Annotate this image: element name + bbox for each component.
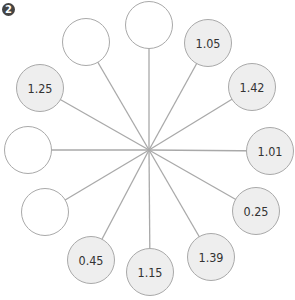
empty-node	[21, 188, 69, 236]
step-number-badge: 2	[2, 3, 15, 16]
value-node: 1.01	[246, 127, 294, 175]
value-node: 0.45	[67, 236, 115, 284]
empty-node	[62, 18, 110, 66]
value-node: 1.42	[228, 63, 276, 111]
value-node: 1.25	[16, 64, 64, 112]
empty-node	[4, 126, 52, 174]
value-node: 1.05	[184, 19, 232, 67]
value-node: 1.15	[126, 248, 174, 296]
empty-node	[125, 1, 173, 49]
value-node: 0.25	[232, 187, 280, 235]
value-node: 1.39	[187, 233, 235, 281]
